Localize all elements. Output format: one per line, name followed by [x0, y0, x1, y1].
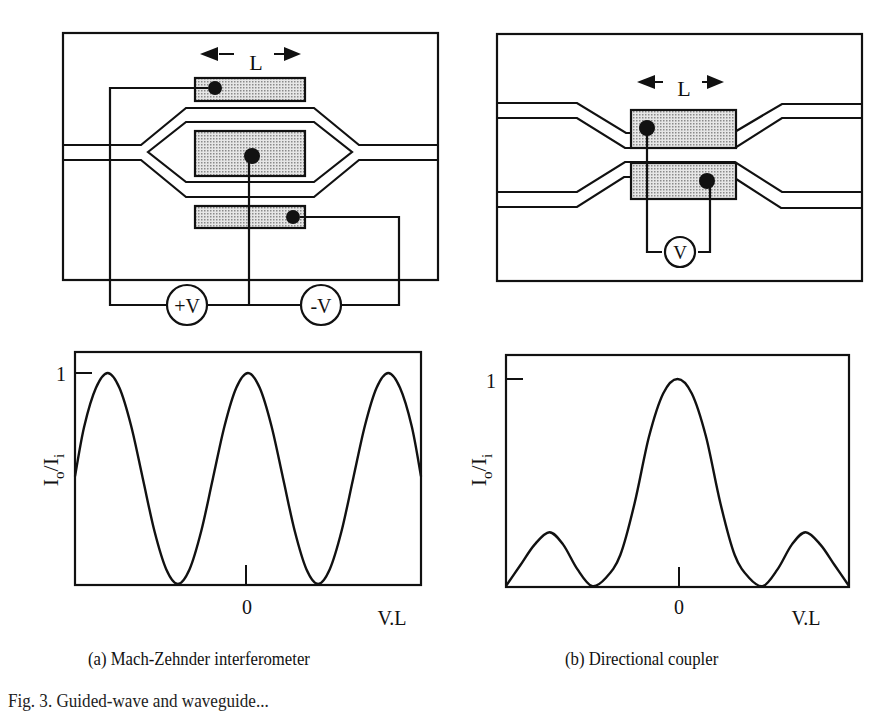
length-label: L [249, 50, 262, 75]
y-tick-label: 1 [56, 363, 66, 385]
series-line [506, 379, 849, 586]
x-tick-label: 0 [674, 596, 684, 618]
source-minus-label: -V [310, 295, 332, 317]
series-line [75, 373, 421, 584]
source-plus-label: +V [174, 295, 200, 317]
contact-dot [286, 210, 300, 224]
y-axis-label: Io/Ii [38, 454, 67, 486]
x-tick-label: 0 [242, 596, 252, 618]
y-tick-label: 1 [486, 370, 496, 392]
contact-dot [699, 173, 715, 189]
panel-b-caption: (b) Directional coupler [565, 648, 718, 670]
contact-dot [244, 148, 260, 164]
x-axis-label: V.L [377, 607, 406, 629]
length-indicator-b: L [637, 75, 724, 101]
arrow-left-icon [200, 47, 218, 61]
figure-caption: Fig. 3. Guided-wave and waveguide... [8, 690, 269, 712]
panel-a-caption: (a) Mach-Zehnder interferometer [88, 648, 310, 670]
x-axis-label: V.L [791, 607, 820, 629]
source-label: V [673, 242, 687, 263]
chart-directional-coupler: 1 0 V.L Io/Ii [466, 355, 849, 629]
contact-dot [208, 81, 222, 95]
y-axis-label-text: Io/Ii [466, 454, 495, 486]
mach-zehnder-device [63, 33, 438, 325]
arrow-right-icon [707, 75, 724, 89]
y-axis-label: Io/Ii [466, 454, 495, 486]
plot-frame [506, 355, 849, 587]
length-label: L [677, 76, 690, 101]
chart-mach-zehnder: 1 0 V.L Io/Ii [38, 352, 421, 629]
y-axis-label-text: Io/Ii [38, 454, 67, 486]
arrow-right-icon [284, 47, 301, 61]
arrow-left-icon [637, 75, 655, 89]
plot-frame [75, 352, 421, 585]
length-indicator-a: L [200, 47, 301, 75]
